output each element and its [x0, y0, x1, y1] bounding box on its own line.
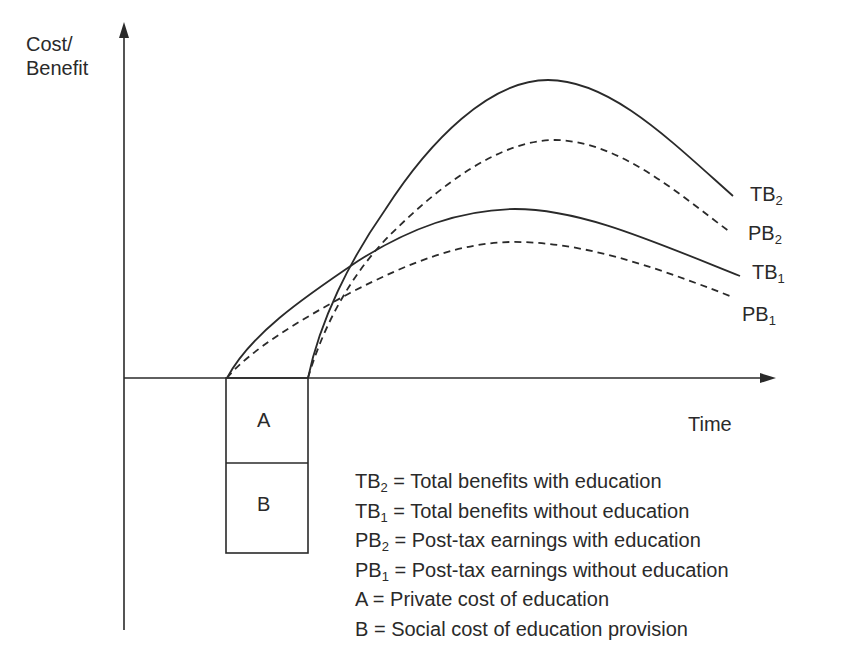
x-axis-label: Time	[688, 413, 732, 435]
legend-row-pb2: PB2 = Post-tax earnings with education	[355, 526, 729, 556]
legend-text: = Post-tax earnings with education	[389, 529, 701, 551]
curve-label-base: PB	[748, 222, 775, 244]
curve-label-sub: 2	[776, 193, 783, 208]
legend-row-tb2: TB2 = Total benefits with education	[355, 467, 729, 497]
x-axis-arrow-icon	[760, 373, 776, 383]
legend-key: PB	[355, 529, 382, 551]
legend-key: TB	[355, 470, 381, 492]
y-axis-label-line1: Cost/	[26, 32, 88, 56]
legend-row-b: B = Social cost of education provision	[355, 615, 729, 645]
legend-row-a: A = Private cost of education	[355, 585, 729, 615]
legend-text: = Post-tax earnings without education	[389, 559, 729, 581]
curve-label-sub: 1	[778, 271, 785, 286]
legend-text: = Social cost of education provision	[368, 618, 688, 640]
legend-row-tb1: TB1 = Total benefits without education	[355, 497, 729, 527]
legend-text: = Total benefits without education	[388, 500, 690, 522]
y-axis-label: Cost/ Benefit	[26, 32, 88, 80]
cost-box	[226, 378, 308, 553]
legend-key-sub: 1	[382, 569, 389, 584]
legend-key: A	[355, 588, 367, 610]
curve-label-base: PB	[742, 303, 769, 325]
y-axis-arrow-icon	[119, 22, 129, 38]
curve-label-base: TB	[750, 183, 776, 205]
legend-row-pb1: PB1 = Post-tax earnings without educatio…	[355, 556, 729, 586]
curve-label-tb2: TB2	[750, 183, 783, 205]
curve-label-sub: 2	[775, 232, 782, 247]
curve-label-tb1: TB1	[752, 261, 785, 283]
legend: TB2 = Total benefits with education TB1 …	[355, 467, 729, 644]
curve-label-pb2: PB2	[748, 222, 782, 244]
box-a-label: A	[257, 409, 270, 431]
curve-tb1	[227, 209, 740, 378]
curve-label-sub: 1	[769, 313, 776, 328]
legend-key: B	[355, 618, 368, 640]
y-axis-label-line2: Benefit	[26, 56, 88, 80]
curve-pb2	[308, 140, 730, 378]
curve-label-pb1: PB1	[742, 303, 776, 325]
box-b-label: B	[257, 493, 270, 515]
legend-key-sub: 2	[381, 480, 388, 495]
legend-key-sub: 1	[381, 510, 388, 525]
legend-key: PB	[355, 559, 382, 581]
curve-pb1	[227, 242, 730, 378]
curve-label-base: TB	[752, 261, 778, 283]
curve-tb2	[308, 80, 733, 378]
legend-text: = Total benefits with education	[388, 470, 662, 492]
legend-text: = Private cost of education	[367, 588, 609, 610]
legend-key: TB	[355, 500, 381, 522]
legend-key-sub: 2	[382, 539, 389, 554]
